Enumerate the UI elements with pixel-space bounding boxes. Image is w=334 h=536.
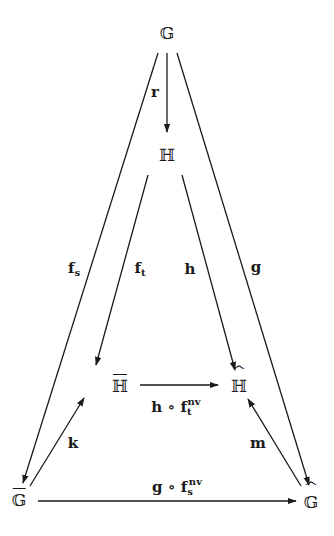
label-f-t-sub: t: [141, 267, 146, 278]
node-H-hat-symbol: ℍ: [231, 376, 247, 396]
label-r-base: r: [151, 83, 159, 101]
label-r: r: [151, 83, 159, 101]
label-k: k: [68, 434, 78, 452]
label-h-f-t-nv-sub: t: [187, 406, 192, 417]
label-g-f-s-nv-sup: nv: [189, 476, 202, 487]
label-k-base: k: [68, 434, 78, 452]
label-h-compose-f-t-nv: h ∘ ftnv: [151, 396, 200, 417]
label-m-base: m: [250, 434, 266, 452]
node-G-bar-symbol: 𝔾: [12, 490, 27, 510]
label-m: m: [250, 434, 266, 452]
label-g-base: g: [251, 258, 262, 276]
label-g-f-s-nv-sub: s: [187, 486, 193, 497]
node-H-symbol: ℍ: [159, 145, 175, 165]
label-g-f-s-nv-base: g ∘ f: [152, 478, 187, 496]
label-f-t: ft: [134, 259, 145, 278]
node-G-hat-symbol: 𝔾: [304, 492, 319, 512]
node-G: 𝔾: [160, 23, 175, 43]
arrow-layer: [0, 0, 334, 536]
node-G-symbol: 𝔾: [160, 23, 175, 43]
label-g: g: [251, 258, 262, 276]
node-H-hat: ℍ: [231, 376, 247, 396]
label-g-compose-f-s-nv: g ∘ fsnv: [152, 476, 202, 497]
node-H-bar-symbol: ℍ: [112, 376, 128, 396]
label-f-s-sub: s: [74, 267, 80, 278]
label-h: h: [185, 260, 196, 278]
label-h-base: h: [185, 260, 196, 278]
arrow-G-to-G_hat: [177, 53, 309, 485]
node-G-bar: 𝔾: [12, 490, 27, 510]
label-h-f-t-nv-base: h ∘ f: [151, 398, 187, 416]
node-H: ℍ: [159, 145, 175, 165]
node-G-hat: 𝔾: [304, 492, 319, 512]
node-H-bar: ℍ: [112, 376, 128, 396]
label-h-f-t-nv-sup: nv: [188, 396, 201, 407]
label-f-s: fs: [68, 259, 80, 278]
